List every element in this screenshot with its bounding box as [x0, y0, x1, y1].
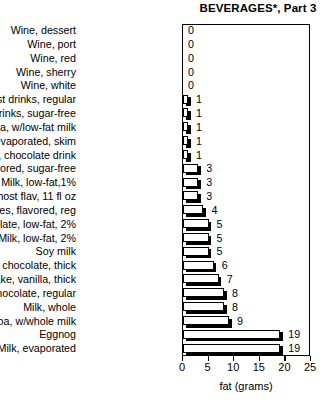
bar-value-label: 7: [227, 273, 233, 287]
bar-category-label: Slim Fast, most flav, 11 fl oz: [0, 190, 76, 204]
bar-category-label: Wine, white: [0, 79, 76, 93]
bar-category-label: Shake, chocolate, thick: [0, 259, 76, 273]
table-row: Milk, evaporated, skim1: [0, 135, 334, 149]
table-row: Milk, low-fat, 2%5: [0, 232, 334, 246]
x-axis-tick-label: 15: [245, 361, 273, 373]
bar-category-label: Shake, vanilla, thick: [0, 273, 76, 287]
table-row: Milk, chocolate, low-fat, 2%5: [0, 218, 334, 232]
bar-value-label: 1: [196, 149, 202, 163]
table-row: Milk, low-fat,1%3: [0, 176, 334, 190]
bar-body: [183, 95, 188, 104]
bar-value-label: 19: [288, 328, 300, 342]
bar-category-label: Milk, whole: [0, 301, 76, 315]
bar-body: [183, 302, 224, 311]
table-row: Milk, chocolate, regular8: [0, 287, 334, 301]
bar-value-label: 0: [188, 66, 194, 80]
bar-body: [183, 233, 209, 242]
bar-value-label: 0: [188, 38, 194, 52]
bar-category-label: Coffees, flavored, reg: [0, 204, 76, 218]
bar-category-label: Milk, low-fat, 2%: [0, 232, 76, 246]
bar-value-label: 1: [196, 93, 202, 107]
table-row: Coffees, flavored, reg4: [0, 204, 334, 218]
table-row: Milk, whole8: [0, 301, 334, 315]
bar-category-label: Soy milk: [0, 245, 76, 259]
table-row: Wine, port0: [0, 38, 334, 52]
bar-value-label: 0: [188, 79, 194, 93]
table-row: Shake, vanilla, thick7: [0, 273, 334, 287]
table-row: Yoo-Hoo, chocolate drink1: [0, 149, 334, 163]
table-row: Cocoa, w/whole milk9: [0, 315, 334, 329]
bar-value-label: 1: [196, 107, 202, 121]
bar-value-label: 8: [232, 287, 238, 301]
bar-body: [183, 247, 209, 256]
bar-category-label: Cocoa, w/low-fat milk: [0, 121, 76, 135]
x-axis-tick-label: 25: [296, 361, 324, 373]
bar-value-label: 9: [237, 315, 243, 329]
bar-category-label: Milk, evaporated, skim: [0, 135, 76, 149]
bar-body: [183, 316, 229, 325]
x-axis-tick-label: 20: [270, 361, 298, 373]
table-row: Soy milk5: [0, 245, 334, 259]
bar-category-label: Milk, chocolate, regular: [0, 287, 76, 301]
x-axis-tick-label: 5: [194, 361, 222, 373]
bar-value-label: 19: [288, 342, 300, 356]
table-row: Shake, chocolate, thick6: [0, 259, 334, 273]
bar-value-label: 5: [217, 232, 223, 246]
bar-value-label: 6: [222, 259, 228, 273]
bar-value-label: 8: [232, 301, 238, 315]
table-row: Eggnog19: [0, 328, 334, 342]
bar-chart: BEVERAGES*, Part 3 Wine, dessert0Wine, p…: [0, 0, 334, 405]
bar-body: [183, 205, 203, 214]
bar-body: [183, 108, 188, 117]
bar-category-label: Wine, sherry: [0, 66, 76, 80]
chart-title: BEVERAGES*, Part 3: [182, 2, 334, 14]
table-row: Wine, red0: [0, 52, 334, 66]
bar-value-label: 4: [211, 204, 217, 218]
table-row: Breakfast drinks, regular1: [0, 93, 334, 107]
bar-body: [183, 219, 209, 228]
bar-value-label: 0: [188, 24, 194, 38]
table-row: Slim Fast, most flav, 11 fl oz3: [0, 190, 334, 204]
bar-body: [183, 330, 280, 339]
table-row: Wine, sherry0: [0, 66, 334, 80]
bar-body: [183, 288, 224, 297]
bar-category-label: Wine, red: [0, 52, 76, 66]
bar-body: [183, 261, 214, 270]
x-axis-tick-label: 0: [168, 361, 196, 373]
bar-category-label: Breakfast drinks, regular: [0, 93, 76, 107]
table-row: Breakfast drinks, sugar-free1: [0, 107, 334, 121]
bar-category-label: Wine, dessert: [0, 24, 76, 38]
bar-body: [183, 122, 188, 131]
bar-category-label: Milk, chocolate, low-fat, 2%: [0, 218, 76, 232]
bar-category-label: Breakfast drinks, sugar-free: [0, 107, 76, 121]
bar-value-label: 3: [206, 190, 212, 204]
bar-category-label: Wine, port: [0, 38, 76, 52]
bar-category-label: Milk, evaporated: [0, 342, 76, 356]
bar-category-label: Coffees, flavored, sugar-free: [0, 162, 76, 176]
x-axis-title: fat (grams): [182, 380, 310, 392]
table-row: Wine, dessert0: [0, 24, 334, 38]
bar-body: [183, 344, 280, 353]
bar-value-label: 3: [206, 162, 212, 176]
bar-category-label: Milk, low-fat,1%: [0, 176, 76, 190]
bar-value-label: 5: [217, 218, 223, 232]
bar-body: [183, 191, 198, 200]
bar-value-label: 1: [196, 121, 202, 135]
bar-category-label: Cocoa, w/whole milk: [0, 315, 76, 329]
table-row: Coffees, flavored, sugar-free3: [0, 162, 334, 176]
table-row: Cocoa, w/low-fat milk1: [0, 121, 334, 135]
bar-value-label: 3: [206, 176, 212, 190]
bar-body: [183, 136, 188, 145]
table-row: Wine, white0: [0, 79, 334, 93]
bar-body: [183, 178, 198, 187]
bar-body: [183, 274, 219, 283]
bar-category-label: Yoo-Hoo, chocolate drink: [0, 149, 76, 163]
table-row: Milk, evaporated19: [0, 342, 334, 356]
bar-value-label: 0: [188, 52, 194, 66]
bar-body: [183, 150, 188, 159]
bar-category-label: Eggnog: [0, 328, 76, 342]
bar-body: [183, 164, 198, 173]
bar-value-label: 5: [217, 245, 223, 259]
x-axis-tick-label: 10: [219, 361, 247, 373]
bar-rows: Wine, dessert0Wine, port0Wine, red0Wine,…: [0, 24, 334, 356]
